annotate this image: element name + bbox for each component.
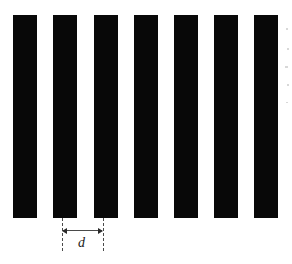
arrow-left-icon [62, 228, 67, 234]
grating-bar [94, 15, 118, 218]
grating-bar [174, 15, 198, 218]
extension-line-right [103, 218, 105, 251]
extension-line-left [62, 218, 64, 251]
scan-artifact [286, 102, 288, 103]
scan-artifact [287, 48, 289, 50]
grating-bar [13, 15, 37, 218]
diffraction-grating-figure: d [0, 0, 292, 264]
dimension-line [63, 230, 102, 231]
arrow-right-icon [98, 228, 103, 234]
grating-bars-group [0, 0, 292, 264]
scan-artifact [287, 84, 289, 86]
scan-artifact [285, 66, 288, 68]
grating-bar [134, 15, 158, 218]
grating-bar [214, 15, 238, 218]
grating-bar [254, 15, 278, 218]
grating-bar [53, 15, 77, 218]
scan-artifact [286, 28, 288, 30]
dimension-label-d: d [78, 236, 85, 250]
